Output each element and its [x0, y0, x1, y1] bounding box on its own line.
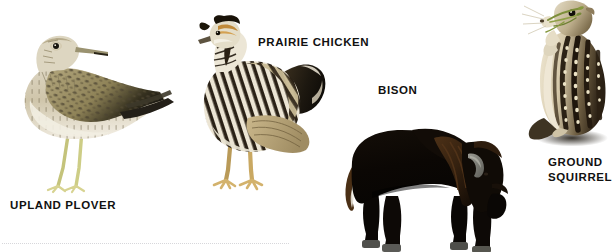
- plover-eye: [53, 43, 59, 49]
- plover-head: [36, 36, 79, 72]
- bison-muzzle: [487, 194, 506, 219]
- label-ground-squirrel-line2: SQUIRREL: [548, 170, 612, 185]
- dotted-separator-rule: [2, 243, 289, 244]
- upland-plover-artwork: [8, 16, 176, 194]
- label-prairie-chicken: PRAIRIE CHICKEN: [258, 35, 369, 50]
- squirrel-head: [554, 1, 592, 37]
- prairie-chicken-eye: [216, 31, 221, 36]
- figure-bison: [342, 100, 534, 252]
- label-bison: BISON: [378, 83, 417, 98]
- prairie-chicken-legs: [214, 148, 262, 189]
- figure-upland-plover: [8, 16, 176, 194]
- bison-artwork: [342, 100, 534, 252]
- illustration-plate: UPLAND PLOVER: [0, 0, 615, 252]
- prairie-chicken-head: [210, 20, 241, 49]
- bison-hind-leg-near: [383, 196, 401, 250]
- label-upland-plover: UPLAND PLOVER: [10, 198, 116, 213]
- label-ground-squirrel-line1: GROUND: [548, 155, 603, 170]
- ground-squirrel-artwork: [520, 0, 615, 150]
- prairie-chicken-bill: [198, 36, 211, 44]
- figure-ground-squirrel: [520, 0, 615, 150]
